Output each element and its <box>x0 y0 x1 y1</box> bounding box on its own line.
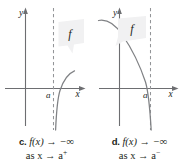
caption-d-approach: as x → a <box>119 150 156 161</box>
y-axis-c <box>23 8 28 127</box>
figure-panel-d: f y x a d. f(x) → −∞ as x → a− <box>93 0 186 167</box>
figure-pair: f y x a c. f(x) → −∞ as x → a+ <box>0 0 186 167</box>
caption-c-superscript: + <box>63 148 67 157</box>
caption-c-line1: c. f(x) → −∞ <box>0 136 93 147</box>
caption-c-line2: as x → a+ <box>0 150 93 161</box>
x-axis-label-d: x <box>168 89 174 99</box>
caption-d-expression: f(x) → −∞ <box>122 136 167 147</box>
figure-panel-c: f y x a c. f(x) → −∞ as x → a+ <box>0 0 93 167</box>
caption-d: d. f(x) → −∞ as x → a− <box>93 134 186 167</box>
caption-c: c. f(x) → −∞ as x → a+ <box>0 134 93 167</box>
caption-d-line1: d. f(x) → −∞ <box>93 136 186 147</box>
caption-d-line2: as x → a− <box>93 150 186 161</box>
plot-area-d: f y x a <box>93 0 186 134</box>
curve-f-c <box>56 71 75 130</box>
caption-d-letter: d. <box>112 136 120 147</box>
asymptote-label-d: a <box>143 90 148 100</box>
caption-c-expression: f(x) → −∞ <box>29 136 74 147</box>
plot-area-c: f y x a <box>0 0 93 134</box>
caption-c-approach: as x → a <box>26 150 63 161</box>
asymptote-label-c: a <box>46 90 51 100</box>
x-axis-d <box>99 86 179 91</box>
y-axis-label-c: y <box>18 8 24 18</box>
caption-c-letter: c. <box>19 136 27 147</box>
x-axis-label-c: x <box>75 89 81 99</box>
caption-d-superscript: − <box>156 148 160 157</box>
y-axis-label-d: y <box>112 8 118 18</box>
